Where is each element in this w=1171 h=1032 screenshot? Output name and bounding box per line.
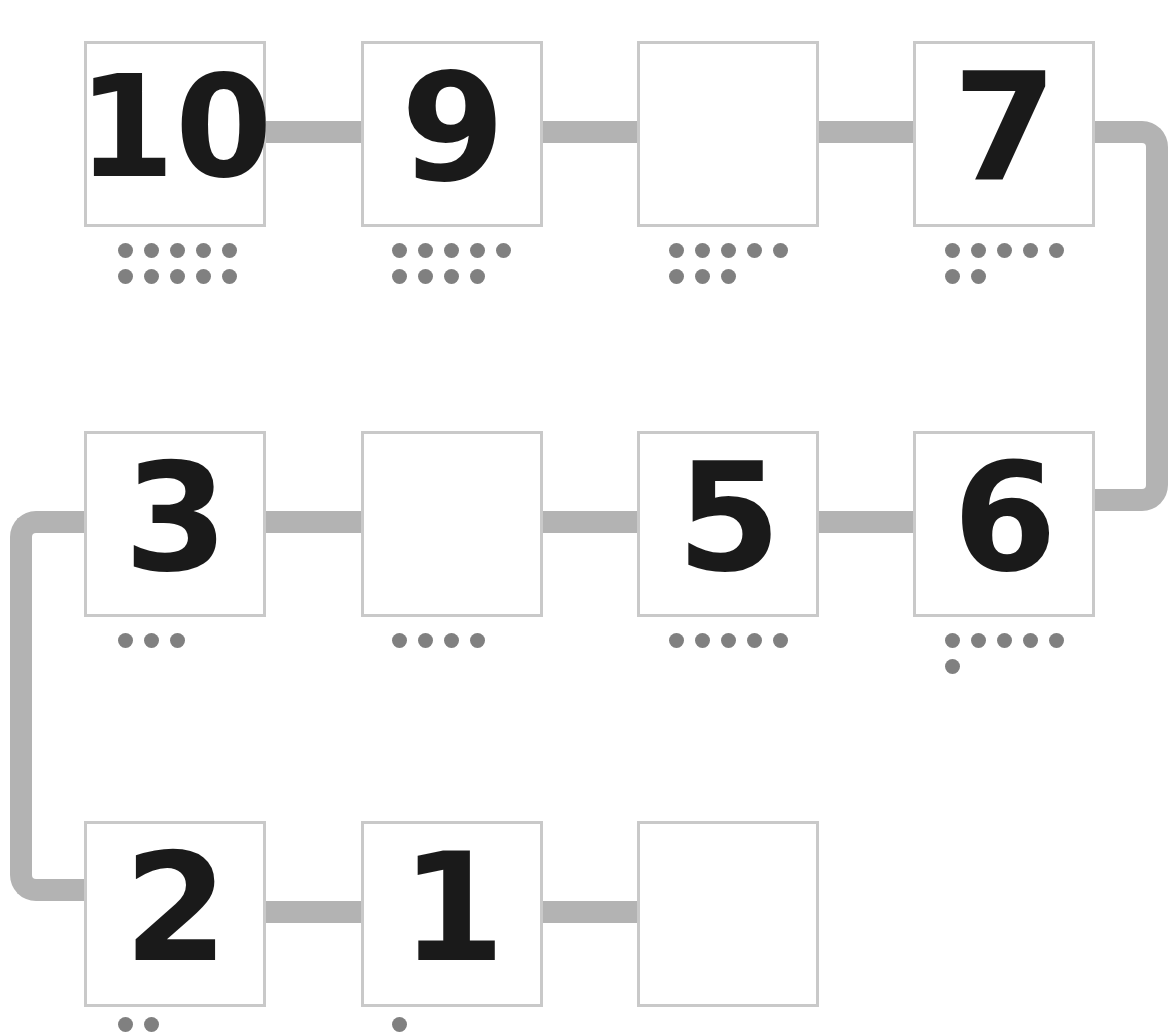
counting-dot [118, 243, 133, 258]
number-card-row1-col2[interactable]: 9 [361, 41, 543, 227]
counting-dot [695, 243, 710, 258]
counting-dot [470, 633, 485, 648]
number-card-digit: 3 [124, 443, 226, 593]
counting-dot [170, 269, 185, 284]
counting-dot [721, 243, 736, 258]
dot-group-row1-col3 [669, 243, 801, 295]
number-card-digit: 9 [401, 53, 503, 203]
counting-dot [196, 269, 211, 284]
counting-dot [1049, 243, 1064, 258]
number-card-digit: 2 [124, 833, 226, 983]
counting-dot [695, 633, 710, 648]
counting-dot [470, 269, 485, 284]
counting-dot [945, 243, 960, 258]
number-card-row1-col4[interactable]: 7 [913, 41, 1095, 227]
counting-dot [773, 633, 788, 648]
counting-dot [971, 633, 986, 648]
counting-dot [971, 269, 986, 284]
counting-dot [144, 269, 159, 284]
connector-row2-seg1 [252, 511, 372, 533]
counting-dot [747, 243, 762, 258]
number-card-row1-col1[interactable]: 10 [84, 41, 266, 227]
counting-dot [945, 659, 960, 674]
counting-dot [392, 633, 407, 648]
counting-dot [118, 269, 133, 284]
counting-dot [222, 269, 237, 284]
number-card-digit: 7 [953, 53, 1055, 203]
number-card-digit: 10 [78, 58, 273, 198]
number-card-digit: 5 [677, 443, 779, 593]
counting-dot [1023, 633, 1038, 648]
counting-dot [721, 633, 736, 648]
dot-group-row2-col3 [669, 633, 801, 659]
counting-dot [945, 633, 960, 648]
connector-row1-seg2 [528, 121, 650, 143]
connector-row1-seg3 [805, 121, 927, 143]
counting-dot [222, 243, 237, 258]
number-card-row3-col2[interactable]: 1 [361, 821, 543, 1007]
counting-dot [444, 243, 459, 258]
counting-dot [695, 269, 710, 284]
counting-dot [392, 269, 407, 284]
counting-dot [496, 243, 511, 258]
counting-dot [144, 1017, 159, 1032]
connector-row3-seg1 [252, 901, 372, 923]
counting-dot [418, 243, 433, 258]
connector-row2-seg3 [805, 511, 927, 533]
counting-dot [721, 269, 736, 284]
counting-dot [170, 243, 185, 258]
dot-group-row2-col2 [392, 633, 524, 659]
dot-group-row1-col2 [392, 243, 524, 295]
dot-group-row1-col1 [118, 243, 250, 295]
counting-dot [196, 243, 211, 258]
counting-dot [118, 633, 133, 648]
counting-dot [470, 243, 485, 258]
counting-dot [444, 269, 459, 284]
counting-dot [945, 269, 960, 284]
counting-dot [118, 1017, 133, 1032]
dot-group-row2-col1 [118, 633, 250, 659]
dot-group-row3-col1 [118, 1017, 250, 1032]
counting-dot [144, 243, 159, 258]
dot-group-row3-col2 [392, 1017, 524, 1032]
counting-dot [1049, 633, 1064, 648]
number-card-digit: 6 [953, 443, 1055, 593]
counting-dot [418, 269, 433, 284]
counting-dot [144, 633, 159, 648]
counting-dot [392, 243, 407, 258]
number-card-row1-col3-blank[interactable] [637, 41, 819, 227]
counting-dot [971, 243, 986, 258]
counting-dot [1023, 243, 1038, 258]
dot-group-row1-col4 [945, 243, 1077, 295]
connector-row2-seg2 [528, 511, 650, 533]
number-card-digit: 1 [401, 833, 503, 983]
number-card-row3-col3-blank[interactable] [637, 821, 819, 1007]
counting-dot [418, 633, 433, 648]
counting-dot [773, 243, 788, 258]
counting-dot [669, 633, 684, 648]
number-card-row2-col3[interactable]: 5 [637, 431, 819, 617]
counting-dot [997, 243, 1012, 258]
number-card-row2-col4[interactable]: 6 [913, 431, 1095, 617]
counting-dot [997, 633, 1012, 648]
counting-dot [170, 633, 185, 648]
counting-dot [669, 269, 684, 284]
dot-group-row2-col4 [945, 633, 1077, 685]
connector-row3-seg2 [528, 901, 650, 923]
counting-dot [444, 633, 459, 648]
counting-dot [669, 243, 684, 258]
worksheet-canvas: 10 9 7 3 5 6 2 1 [0, 0, 1171, 1032]
number-card-row2-col1[interactable]: 3 [84, 431, 266, 617]
number-card-row2-col2-blank[interactable] [361, 431, 543, 617]
counting-dot [392, 1017, 407, 1032]
number-card-row3-col1[interactable]: 2 [84, 821, 266, 1007]
counting-dot [747, 633, 762, 648]
